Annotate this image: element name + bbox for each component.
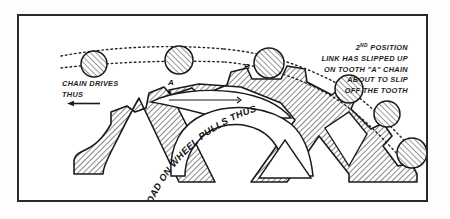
caption-line-3: ON TOOTH "A" CHAIN [321,65,408,76]
ordinal-suffix: ND [360,42,368,48]
illustration-canvas: LOAD ON WHEEL PULLS THUS CHAIN DRIVES TH… [0,0,450,219]
chain-roller [374,101,400,127]
position-word: POSITION [370,43,408,52]
chain-roller [254,48,284,78]
left-arrow-icon [66,100,102,107]
chain-drives-caption: CHAIN DRIVES THUS [62,79,119,107]
caption-line-2-row: THUS [62,90,119,108]
chain-roller [165,46,193,74]
caption-line-1: 2ND POSITION [321,40,408,54]
caption-line-1: CHAIN DRIVES [62,79,119,90]
second-position-caption: 2ND POSITION LINK HAS SLIPPED UP ON TOOT… [321,40,408,96]
caption-line-4: ABOUT TO SLIP [321,75,408,86]
chain-roller [81,51,107,77]
chain-roller [397,138,426,168]
diagram-frame: LOAD ON WHEEL PULLS THUS CHAIN DRIVES TH… [17,14,428,202]
caption-line-5: OFF THE TOOTH [321,86,408,97]
tooth-label-a: A [168,78,174,87]
caption-line-2: THUS [62,90,83,99]
tooth-label-b: B [244,62,250,71]
caption-line-2: LINK HAS SLIPPED UP [321,54,408,65]
